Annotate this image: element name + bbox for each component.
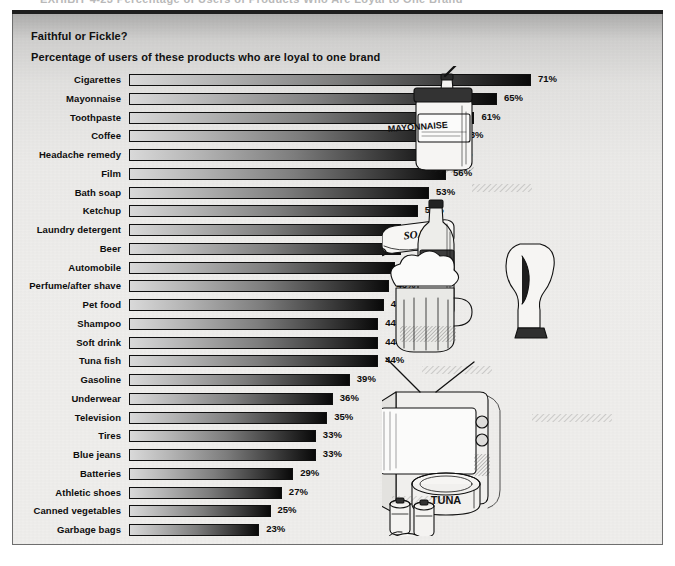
bar-value-label: 65% <box>504 92 523 103</box>
bar-row: Shampoo44% <box>13 316 663 335</box>
bar-value-label: 36% <box>340 392 359 403</box>
bar-value-label: 44% <box>385 336 404 347</box>
bar-category-label: Coffee <box>13 130 121 141</box>
bar <box>129 355 378 367</box>
bar <box>129 74 531 86</box>
bar-category-label: Blue jeans <box>13 449 121 460</box>
bar-value-label: 47% <box>402 261 421 272</box>
bar-category-label: Shampoo <box>13 318 121 329</box>
bar-fill <box>129 187 429 199</box>
bar-row: Headache remedy56% <box>13 147 663 166</box>
bar-fill <box>129 449 316 461</box>
bar-value-label: 33% <box>323 429 342 440</box>
bar-value-label: 29% <box>300 467 319 478</box>
bar-fill <box>129 505 271 517</box>
bar-value-label: 61% <box>481 111 500 122</box>
bar-chart-plot-area: Cigarettes71%Mayonnaise65%Toothpaste61%C… <box>13 72 663 542</box>
bar-row: Gasoline39% <box>13 372 663 391</box>
bar-category-label: Automobile <box>13 262 121 273</box>
bar-value-label: 56% <box>453 148 472 159</box>
bar-category-label: Perfume/after shave <box>13 280 121 291</box>
bar <box>129 449 316 461</box>
chart-title: Faithful or Fickle? <box>31 30 128 42</box>
bar-category-label: Garbage bags <box>13 524 121 535</box>
bar-fill <box>129 262 395 274</box>
bar-fill <box>129 149 446 161</box>
bar-fill <box>129 299 384 311</box>
bar-fill <box>129 487 282 499</box>
bar-category-label: Film <box>13 168 121 179</box>
bar-fill <box>129 224 401 236</box>
bar-category-label: Tires <box>13 430 121 441</box>
bar-row: Tires33% <box>13 428 663 447</box>
bar-value-label: 46% <box>396 279 415 290</box>
bar-category-label: Television <box>13 412 121 423</box>
bar <box>129 224 401 236</box>
bar-fill <box>129 74 531 86</box>
bar <box>129 487 282 499</box>
bar-row: Pet food45% <box>13 297 663 316</box>
bar-fill <box>129 93 497 105</box>
bar-fill <box>129 130 457 142</box>
bar-fill <box>129 318 378 330</box>
bar-value-label: 51% <box>425 204 444 215</box>
bar-row: Batteries29% <box>13 466 663 485</box>
bar-category-label: Underwear <box>13 393 121 404</box>
bar-row: Mayonnaise65% <box>13 91 663 110</box>
bar-category-label: Gasoline <box>13 374 121 385</box>
bar <box>129 337 378 349</box>
bar-category-label: Mayonnaise <box>13 93 121 104</box>
bar-category-label: Canned vegetables <box>13 505 121 516</box>
bar-category-label: Beer <box>13 243 121 254</box>
bar-category-label: Toothpaste <box>13 112 121 123</box>
bar <box>129 262 395 274</box>
bar-fill <box>129 168 446 180</box>
bar-row: Television35% <box>13 410 663 429</box>
bar-row: Automobile47% <box>13 260 663 279</box>
bar-row: Garbage bags23% <box>13 522 663 541</box>
bar <box>129 187 429 199</box>
bar-row: Coffee58% <box>13 128 663 147</box>
bar-value-label: 56% <box>453 167 472 178</box>
bar <box>129 524 259 536</box>
bar-row: Ketchup51% <box>13 203 663 222</box>
bar-category-label: Ketchup <box>13 205 121 216</box>
bar-fill <box>129 355 378 367</box>
bar-value-label: 23% <box>266 523 285 534</box>
bar-fill <box>129 524 259 536</box>
bar-row: Bath soap53% <box>13 185 663 204</box>
bar-fill <box>129 468 293 480</box>
bar <box>129 430 316 442</box>
bar-category-label: Laundry detergent <box>13 224 121 235</box>
bar-row: Underwear36% <box>13 391 663 410</box>
bar-value-label: 45% <box>391 298 410 309</box>
bar-category-label: Athletic shoes <box>13 487 121 498</box>
bar-category-label: Bath soap <box>13 187 121 198</box>
bar-fill <box>129 374 350 386</box>
bar <box>129 468 293 480</box>
bar-category-label: Pet food <box>13 299 121 310</box>
bar-row: Athletic shoes27% <box>13 485 663 504</box>
bar-row: Toothpaste61% <box>13 110 663 129</box>
bar-value-label: 25% <box>278 504 297 515</box>
bar-row: Soft drink44% <box>13 335 663 354</box>
bar-value-label: 71% <box>538 73 557 84</box>
bar-value-label: 39% <box>357 373 376 384</box>
bar <box>129 412 327 424</box>
bar <box>129 318 378 330</box>
bar-category-label: Cigarettes <box>13 74 121 85</box>
bar <box>129 374 350 386</box>
bar-fill <box>129 337 378 349</box>
bar <box>129 112 474 124</box>
bar <box>129 130 457 142</box>
bar <box>129 393 333 405</box>
bar-value-label: 33% <box>323 448 342 459</box>
bar <box>129 299 384 311</box>
bar-value-label: 48% <box>408 242 427 253</box>
bar-category-label: Batteries <box>13 468 121 479</box>
bar-fill <box>129 112 474 124</box>
bar-value-label: 48% <box>408 223 427 234</box>
exhibit-caption: EXHIBIT 4-23 Percentage of Users of Prod… <box>40 0 463 5</box>
bar-value-label: 44% <box>385 317 404 328</box>
bar-value-label: 58% <box>464 129 483 140</box>
